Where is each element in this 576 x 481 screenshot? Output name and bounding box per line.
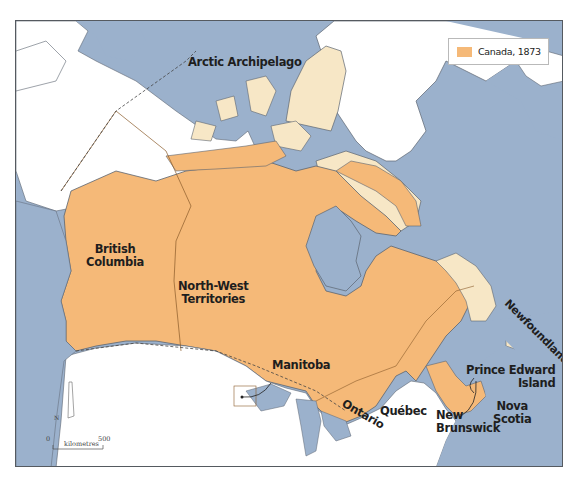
label-quebec: Québec (380, 405, 427, 418)
label-nwt-line2: Territories (178, 293, 249, 306)
map-frame: Canada, 1873 Arctic Archipelago British … (15, 20, 563, 467)
label-north-west-territories: North-West Territories (178, 280, 249, 306)
label-prince-edward-island: Prince Edward Island (466, 364, 555, 390)
north-arrow-label: N (54, 414, 59, 421)
label-manitoba: Manitoba (272, 359, 330, 372)
legend: Canada, 1873 (448, 38, 549, 65)
label-bc-line2: Columbia (86, 256, 144, 269)
label-british-columbia: British Columbia (86, 243, 144, 269)
label-arctic-archipelago: Arctic Archipelago (188, 56, 302, 69)
legend-label: Canada, 1873 (478, 46, 541, 57)
scale-unit: kilometres (64, 440, 99, 448)
scale-end: 500 (98, 435, 110, 443)
label-nb-line2: Brunswick (436, 422, 500, 435)
label-pei-line2: Island (466, 377, 555, 390)
label-new-brunswick: New Brunswick (436, 409, 500, 435)
scale-start: 0 (46, 435, 50, 443)
legend-swatch-canada-1873 (457, 47, 472, 57)
